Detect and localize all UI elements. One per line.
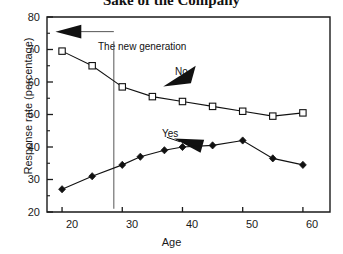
- plot-area: [0, 0, 343, 254]
- callout-lines: [55, 25, 204, 209]
- chart-figure: Sake of the Company Response rate (perce…: [0, 0, 343, 254]
- data-series: [59, 48, 307, 193]
